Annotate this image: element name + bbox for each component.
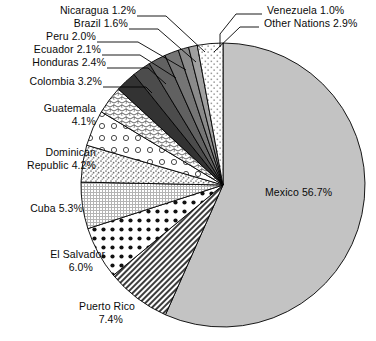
pie-chart: Nicaragua 1.2% Brazil 1.6% Peru 2.0% Ecu… — [0, 0, 376, 341]
label-brazil: Brazil 1.6% — [0, 17, 128, 30]
label-guatemala: Guatemala — [0, 102, 96, 115]
label-el-salvador: El Salvador — [0, 248, 105, 261]
label-guatemala-value: 4.1% — [0, 115, 96, 128]
label-colombia: Colombia 3.2% — [0, 75, 102, 88]
label-other-nations: Other Nations 2.9% — [264, 17, 357, 30]
label-cuba: Cuba 5.3% — [0, 202, 83, 215]
label-honduras: Honduras 2.4% — [0, 56, 106, 69]
label-dominican-republic-value: Republic 4.2% — [0, 159, 96, 172]
label-ecuador: Ecuador 2.1% — [0, 43, 101, 56]
label-el-salvador-value: 6.0% — [0, 261, 93, 274]
label-puerto-rico-value: 7.4% — [0, 313, 123, 326]
leader-line-venezuela — [220, 14, 262, 47]
label-peru: Peru 2.0% — [0, 30, 96, 43]
label-nicaragua: Nicaragua 1.2% — [0, 4, 136, 17]
pie-slices — [81, 43, 365, 327]
label-mexico: Mexico 56.7% — [265, 186, 332, 199]
label-puerto-rico: Puerto Rico — [0, 300, 135, 313]
label-venezuela: Venezuela 1.0% — [267, 4, 344, 17]
label-dominican-republic: Dominican — [0, 146, 96, 159]
